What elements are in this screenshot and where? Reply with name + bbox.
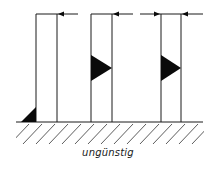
member-1 — [36, 14, 78, 122]
weld-diagram — [0, 0, 216, 169]
fillet-weld-triangle — [21, 107, 36, 122]
hatch-line — [0, 124, 16, 144]
weld-triangle — [161, 55, 181, 81]
hatch-line — [205, 124, 216, 144]
ground-hatching — [0, 124, 216, 144]
arrow-right-icon — [154, 12, 160, 17]
arrow-left-icon — [113, 12, 119, 17]
arrow-left-icon — [182, 12, 188, 17]
arrow-left-icon — [58, 12, 64, 17]
caption: ungünstig — [0, 147, 216, 158]
weld-triangle — [91, 55, 112, 81]
